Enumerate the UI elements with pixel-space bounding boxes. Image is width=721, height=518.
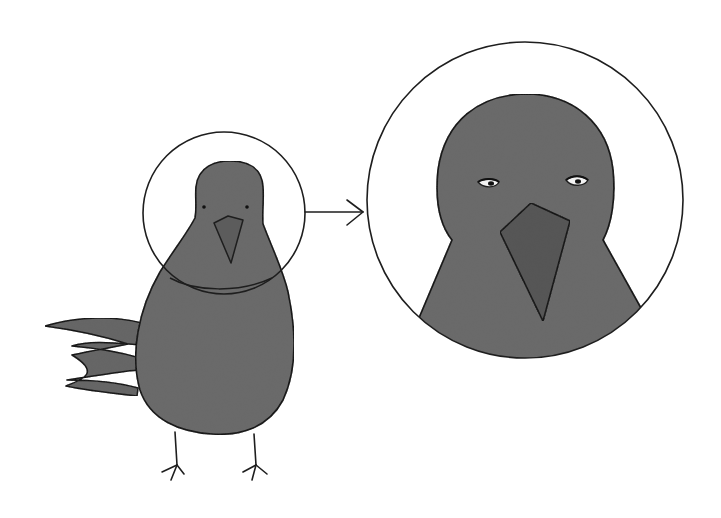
bird-body xyxy=(136,161,294,434)
legs-icon xyxy=(162,432,267,480)
left-eye-icon xyxy=(202,205,206,209)
bird-zoom-illustration xyxy=(0,0,721,518)
zoomed-head-view xyxy=(367,42,683,400)
tail-feathers-icon xyxy=(45,318,142,396)
illustration-canvas: Hand-drawn crayon illustration of a gray… xyxy=(0,0,721,518)
right-sleepy-eye-icon xyxy=(566,176,588,185)
right-eye-icon xyxy=(245,205,249,209)
arrow-right-icon xyxy=(305,200,363,225)
small-bird xyxy=(45,161,294,480)
